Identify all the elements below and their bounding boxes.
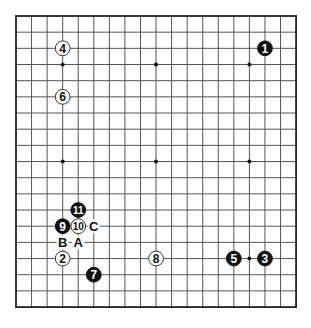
move-number: 8 [153, 252, 160, 266]
stone-black-move-1: 1 [258, 41, 273, 56]
go-board: ABC 1234567891011 [0, 0, 311, 328]
star-point-icon [247, 63, 251, 67]
move-number: 5 [230, 252, 237, 266]
stone-white-move-6: 6 [55, 89, 70, 104]
stone-black-move-3: 3 [258, 251, 273, 266]
star-point-icon [61, 160, 65, 164]
star-point-icon [154, 63, 158, 67]
move-number: 10 [73, 221, 85, 232]
star-point-icon [247, 160, 251, 164]
move-number: 1 [262, 42, 269, 56]
stone-white-move-8: 8 [149, 251, 164, 266]
move-number: 4 [59, 42, 66, 56]
marker-label: B [58, 235, 67, 250]
move-number: 11 [73, 205, 84, 216]
stone-white-move-2: 2 [55, 251, 70, 266]
move-number: 7 [90, 268, 97, 282]
marker-label: A [74, 235, 84, 250]
marker-a: A [72, 235, 84, 250]
stone-white-move-4: 4 [55, 41, 70, 56]
star-point-icon [247, 257, 251, 261]
stone-white-move-10: 10 [71, 219, 86, 234]
stone-black-move-11: 11 [71, 203, 86, 218]
move-number: 3 [262, 252, 269, 266]
stone-black-move-7: 7 [86, 267, 101, 282]
move-number: 2 [59, 252, 66, 266]
star-point-icon [154, 160, 158, 164]
marker-b: B [57, 235, 69, 250]
move-number: 6 [59, 90, 66, 104]
stone-black-move-9: 9 [55, 219, 70, 234]
move-number: 9 [59, 220, 66, 234]
marker-label: C [89, 219, 99, 234]
star-point-icon [61, 63, 65, 67]
marker-c: C [88, 219, 100, 234]
stone-black-move-5: 5 [226, 251, 241, 266]
